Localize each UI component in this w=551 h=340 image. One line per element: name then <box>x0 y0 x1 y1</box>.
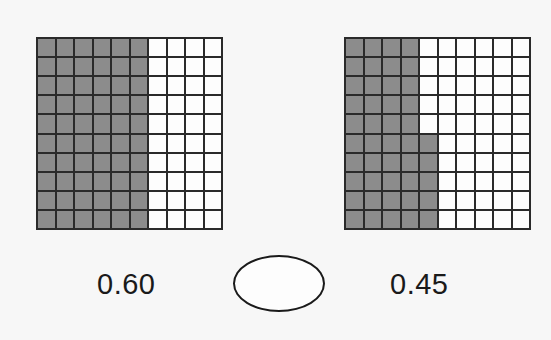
grid-cell <box>205 173 222 190</box>
grid-cell-shaded <box>420 173 437 190</box>
grid-cell <box>186 115 203 132</box>
grid-cell <box>168 192 185 209</box>
grid-cell <box>205 135 222 152</box>
grid-cell <box>186 39 203 56</box>
grid-cell-shaded <box>112 135 129 152</box>
grid-cell <box>513 39 530 56</box>
grid-cell <box>513 77 530 94</box>
grid-cell <box>476 58 493 75</box>
grid-cell-shaded <box>75 211 92 228</box>
grid-cell-shaded <box>420 135 437 152</box>
grid-cell-shaded <box>365 115 382 132</box>
grid-cell <box>168 39 185 56</box>
grid-cell-shaded <box>402 154 419 171</box>
grid-cell <box>494 135 511 152</box>
grid-cell <box>457 115 474 132</box>
grid-cell <box>439 96 456 113</box>
grid-cell <box>476 135 493 152</box>
grid-cell <box>494 211 511 228</box>
grid-cell-shaded <box>38 77 55 94</box>
grid-cell <box>476 115 493 132</box>
grid-cell <box>186 58 203 75</box>
grid-cell <box>168 135 185 152</box>
grid-cell <box>457 154 474 171</box>
grid-cell-shaded <box>365 96 382 113</box>
grid-cell-shaded <box>346 39 363 56</box>
grid-cell <box>494 154 511 171</box>
grid-cell-shaded <box>38 115 55 132</box>
grid-cell <box>457 39 474 56</box>
grid-cell <box>149 135 166 152</box>
grid-cell-shaded <box>383 96 400 113</box>
grid-cell <box>513 154 530 171</box>
grid-cell <box>439 39 456 56</box>
grid-cell <box>168 211 185 228</box>
grid-cell <box>205 115 222 132</box>
grid-cell-shaded <box>112 154 129 171</box>
grid-cell-shaded <box>383 77 400 94</box>
grid-cell-shaded <box>75 58 92 75</box>
grid-cell <box>494 77 511 94</box>
grid-cell <box>476 192 493 209</box>
grid-cell <box>439 135 456 152</box>
grid-cell <box>494 173 511 190</box>
grid-cell-shaded <box>131 96 148 113</box>
grid-cell-shaded <box>346 77 363 94</box>
grid-cell-shaded <box>365 211 382 228</box>
hundred-grid-right <box>344 37 531 230</box>
grid-cell <box>186 154 203 171</box>
grid-cell-shaded <box>94 192 111 209</box>
grid-cell-shaded <box>383 39 400 56</box>
grid-cell <box>420 39 437 56</box>
grid-cell-shaded <box>112 115 129 132</box>
grid-cell <box>513 115 530 132</box>
grid-cell <box>457 211 474 228</box>
grid-cell-shaded <box>402 39 419 56</box>
grid-cell-shaded <box>131 154 148 171</box>
grid-cell <box>457 96 474 113</box>
grid-cell <box>205 154 222 171</box>
grid-cell-shaded <box>112 96 129 113</box>
grid-cell <box>149 58 166 75</box>
grid-cell <box>513 135 530 152</box>
grid-cell-shaded <box>402 192 419 209</box>
grid-cell <box>476 211 493 228</box>
grid-cell-shaded <box>402 77 419 94</box>
grid-cell-shaded <box>94 211 111 228</box>
comparison-answer-oval[interactable] <box>233 255 325 312</box>
grid-cell-shaded <box>131 173 148 190</box>
grid-cell-shaded <box>75 173 92 190</box>
grid-cell-shaded <box>112 39 129 56</box>
grid-cell-shaded <box>402 211 419 228</box>
grid-cell <box>439 154 456 171</box>
grid-cell-shaded <box>94 39 111 56</box>
grid-cell-shaded <box>383 154 400 171</box>
grid-cell-shaded <box>57 39 74 56</box>
grid-cell <box>494 192 511 209</box>
grid-cell-shaded <box>75 154 92 171</box>
grid-cell-shaded <box>346 154 363 171</box>
grid-cell-shaded <box>38 173 55 190</box>
grid-cell <box>439 211 456 228</box>
grid-cell <box>457 58 474 75</box>
grid-cell-shaded <box>383 115 400 132</box>
grid-cell-shaded <box>420 211 437 228</box>
grid-cell-shaded <box>57 58 74 75</box>
grid-cell <box>513 58 530 75</box>
grid-cell-shaded <box>94 154 111 171</box>
grid-cell-shaded <box>365 77 382 94</box>
grid-cell <box>168 115 185 132</box>
grid-cell <box>439 173 456 190</box>
grid-cell <box>149 192 166 209</box>
grid-cell <box>476 96 493 113</box>
grid-cell-shaded <box>383 135 400 152</box>
grid-cell-shaded <box>75 39 92 56</box>
grid-cell-shaded <box>38 211 55 228</box>
grid-cell-shaded <box>38 154 55 171</box>
grid-cell-shaded <box>57 211 74 228</box>
grid-cell <box>205 39 222 56</box>
grid-cell <box>420 77 437 94</box>
grid-cell <box>205 211 222 228</box>
grid-cell-shaded <box>75 77 92 94</box>
grid-cell <box>149 77 166 94</box>
